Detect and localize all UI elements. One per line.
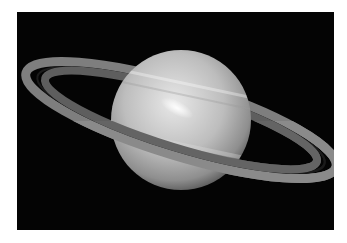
saturn-photo [17,12,334,230]
saturn-illustration [17,12,334,230]
